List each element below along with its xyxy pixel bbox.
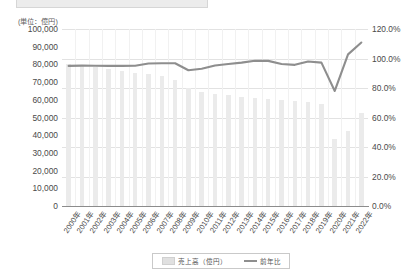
legend-item-line: 前年比 (244, 256, 281, 266)
legend-item-bar: 売上高（億円） (162, 256, 227, 266)
right-tick-3: 60.0% (372, 113, 420, 123)
right-tick-4: 40.0% (372, 142, 420, 152)
left-axis-tick-labels: 100,00090,00080,00070,00060,00050,00040,… (0, 0, 58, 263)
right-tick-2: 80.0% (372, 83, 420, 93)
line-swatch-icon (244, 260, 257, 262)
chart-legend: 売上高（億円） 前年比 (152, 253, 290, 269)
legend-label-bar: 売上高（億円） (178, 256, 227, 266)
plot-area (62, 29, 368, 206)
left-tick-8: 20,000 (2, 166, 58, 176)
left-tick-3: 70,000 (2, 77, 58, 87)
left-tick-5: 50,000 (2, 113, 58, 123)
right-tick-6: 0.0% (372, 201, 420, 211)
right-tick-0: 120.0% (372, 24, 420, 34)
left-tick-7: 30,000 (2, 148, 58, 158)
line-series (62, 29, 368, 206)
right-tick-1: 100.0% (372, 54, 420, 64)
left-tick-2: 80,000 (2, 59, 58, 69)
left-tick-6: 40,000 (2, 130, 58, 140)
left-tick-9: 10,000 (2, 183, 58, 193)
left-tick-4: 60,000 (2, 95, 58, 105)
left-tick-0: 100,000 (2, 24, 58, 34)
bar-swatch-icon (162, 257, 175, 265)
left-tick-10: 0 (2, 201, 58, 211)
legend-label-line: 前年比 (260, 256, 281, 266)
right-tick-5: 20.0% (372, 172, 420, 182)
left-tick-1: 90,000 (2, 42, 58, 52)
right-axis-tick-labels: 120.0%100.0%80.0%60.0%40.0%20.0%0.0% (372, 0, 420, 263)
